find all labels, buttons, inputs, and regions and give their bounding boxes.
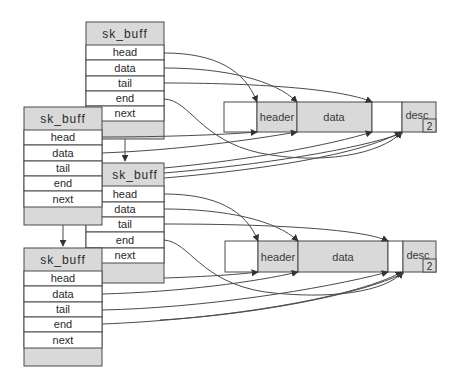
field-tail-label: tail [118, 218, 132, 230]
sk-buff-title: sk_buff [102, 27, 147, 41]
sk-buff-2: sk_buff head data tail end next [24, 107, 102, 225]
arrow-skb4-head [164, 272, 258, 278]
buffer-headroom-segment [224, 102, 257, 132]
arrow-skb1-tail [164, 83, 372, 102]
arrow-skb2-end [164, 132, 401, 178]
buffer-desc-label: desc [405, 109, 429, 121]
field-data-label: data [114, 62, 136, 74]
sk-buff-title: sk_buff [40, 253, 85, 267]
field-data-label: data [114, 203, 136, 215]
buffer-header-label: header [260, 111, 295, 123]
field-end-label: end [54, 177, 72, 189]
field-head-label: head [113, 188, 137, 200]
field-next-label: next [53, 193, 74, 205]
refcount-badge-value: 2 [427, 261, 433, 272]
arrow-skb1-head [164, 53, 257, 102]
field-end-label: end [116, 92, 134, 104]
buffer-desc-label: desc [406, 249, 430, 261]
arrow-skb4-end-double [160, 273, 404, 320]
buffer-headroom-segment [225, 241, 258, 272]
data-buffer-2: header data desc 2 [225, 241, 436, 272]
data-buffer-1: header data desc 2 [224, 102, 436, 132]
field-head-label: head [113, 46, 137, 58]
sk-buff-4: sk_buff head data tail end next [24, 248, 102, 366]
arrow-skb1-data [164, 68, 297, 102]
field-head-label: head [51, 272, 75, 284]
field-next-label: next [115, 249, 136, 261]
buffer-header-label: header [261, 251, 296, 263]
field-next-label: next [115, 107, 136, 119]
buffer-tailroom-segment [372, 102, 402, 132]
field-tail-label: tail [56, 162, 70, 174]
refcount-badge-value: 2 [427, 121, 433, 132]
sk-buff-title: sk_buff [112, 168, 157, 182]
arrow-skb2-tail [164, 132, 372, 168]
field-tail-label: tail [118, 77, 132, 89]
arrow-skb3-head [164, 194, 258, 241]
field-tail-label: tail [56, 303, 70, 315]
buffer-data-label: data [332, 251, 354, 263]
arrow-skb2-end-double [164, 133, 403, 173]
buffer-tailroom-segment [388, 241, 403, 272]
field-end-label: end [54, 318, 72, 330]
field-next-label: next [53, 334, 74, 346]
field-head-label: head [51, 131, 75, 143]
buffer-data-label: data [323, 111, 345, 123]
field-data-label: data [52, 288, 74, 300]
field-data-label: data [52, 147, 74, 159]
field-end-label: end [116, 234, 134, 246]
sk-buff-title: sk_buff [40, 112, 85, 126]
arrow-skb3-tail [164, 224, 388, 241]
diagram-canvas: header data desc 2 header data desc 2 sk… [0, 0, 459, 384]
